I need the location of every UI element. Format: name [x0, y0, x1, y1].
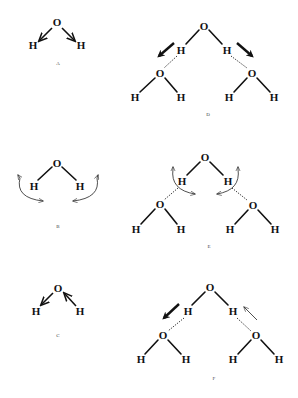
- oxygen-atom: O: [252, 329, 261, 341]
- hydrogen-atom: H: [271, 223, 280, 235]
- oh-bond: [261, 340, 274, 354]
- panel-label: C: [56, 333, 60, 338]
- hydrogen-atom: H: [229, 353, 238, 365]
- hydrogen-atom: H: [32, 305, 41, 317]
- hydrogen-atom: H: [131, 91, 140, 103]
- stretch-arrow-icon: [42, 293, 53, 304]
- oh-bond: [168, 340, 181, 354]
- hydrogen-bond: [168, 318, 184, 331]
- panel-f: O H H O H H O H H F: [137, 281, 284, 381]
- panel-c: O H H C: [32, 282, 85, 338]
- hydrogen-atom: H: [30, 180, 39, 192]
- oh-bond: [165, 78, 177, 92]
- hydrogen-atom: H: [137, 353, 146, 365]
- stretch-arrow-icon: [164, 304, 179, 318]
- hydrogen-atom: H: [178, 175, 187, 187]
- hydrogen-atom: H: [223, 44, 232, 56]
- oh-bond: [62, 167, 76, 180]
- oxygen-atom: O: [249, 199, 258, 211]
- oh-bond: [145, 340, 158, 354]
- stretch-arrow-icon: [237, 43, 252, 56]
- stretch-arrow-icon: [159, 43, 174, 56]
- hydrogen-atom: H: [184, 305, 193, 317]
- oh-bond: [38, 167, 52, 180]
- hydrogen-bond: [231, 56, 247, 68]
- hydrogen-atom: H: [224, 175, 233, 187]
- hydrogen-atom: H: [225, 91, 234, 103]
- oh-bond: [209, 30, 222, 44]
- oxygen-atom: O: [54, 282, 63, 294]
- hydrogen-atom: H: [226, 223, 235, 235]
- hydrogen-atom: H: [275, 353, 284, 365]
- oxygen-atom: O: [200, 20, 209, 32]
- panel-e: O H H O H H O H H E: [132, 151, 280, 249]
- panel-label: F: [213, 376, 216, 381]
- oxygen-atom: O: [53, 16, 62, 28]
- oxygen-atom: O: [156, 198, 165, 210]
- panel-label: D: [206, 112, 210, 117]
- panel-label: B: [56, 224, 60, 229]
- panel-label: E: [207, 244, 210, 249]
- vibrational-modes-figure: O H H A O H H B O H H C O H H O H: [0, 0, 298, 398]
- oxygen-atom: O: [201, 151, 210, 163]
- hydrogen-bond: [237, 318, 251, 331]
- hydrogen-bond: [232, 188, 247, 200]
- hydrogen-atom: H: [270, 91, 279, 103]
- oxygen-atom: O: [159, 329, 168, 341]
- oh-bond: [215, 292, 228, 305]
- oh-bond: [210, 162, 223, 175]
- oxygen-atom: O: [248, 67, 257, 79]
- oh-bond: [192, 292, 205, 305]
- stretch-arrow-icon: [62, 28, 74, 40]
- hydrogen-bond: [164, 188, 178, 200]
- oh-bond: [186, 30, 199, 44]
- oh-bond: [258, 210, 271, 224]
- stretch-arrow-icon: [65, 294, 76, 306]
- oh-bond: [235, 210, 248, 224]
- hydrogen-atom: H: [177, 91, 186, 103]
- oh-bond: [165, 209, 177, 224]
- hydrogen-atom: H: [177, 223, 186, 235]
- hydrogen-atom: H: [132, 223, 141, 235]
- oxygen-atom: O: [206, 281, 215, 293]
- hydrogen-bond: [164, 56, 177, 68]
- hydrogen-atom: H: [29, 39, 38, 51]
- oh-bond: [234, 78, 247, 92]
- stretch-arrow-icon: [40, 28, 52, 40]
- panel-label: A: [56, 61, 60, 66]
- hydrogen-atom: H: [76, 305, 85, 317]
- oh-bond: [238, 340, 251, 354]
- hydrogen-atom: H: [182, 353, 191, 365]
- oxygen-atom: O: [53, 157, 62, 169]
- stretch-arrow-icon: [244, 307, 257, 320]
- oh-bond: [141, 209, 155, 224]
- oh-bond: [257, 78, 270, 92]
- panel-d: O H H O H H O H H D: [131, 20, 279, 117]
- hydrogen-atom: H: [77, 39, 86, 51]
- hydrogen-atom: H: [76, 180, 85, 192]
- oh-bond: [140, 78, 155, 92]
- panel-a: O H H A: [29, 16, 86, 66]
- panel-b: O H H B: [18, 157, 98, 229]
- oxygen-atom: O: [156, 67, 165, 79]
- hydrogen-atom: H: [177, 44, 186, 56]
- hydrogen-atom: H: [229, 305, 238, 317]
- oh-bond: [187, 162, 200, 175]
